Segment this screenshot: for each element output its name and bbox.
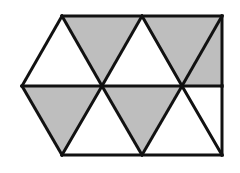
triangular-grid-figure xyxy=(0,0,240,173)
